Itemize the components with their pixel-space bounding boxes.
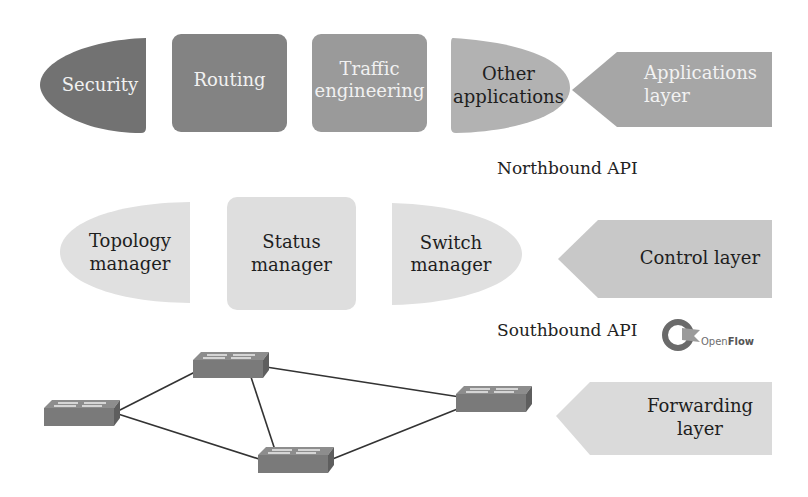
switch-icon	[456, 386, 532, 412]
traffic-engineering-label-1: Traffic	[340, 58, 400, 81]
northbound-api-label: Northbound API	[497, 158, 638, 178]
routing-label: Routing	[193, 69, 265, 92]
traffic-engineering-label-2: engineering	[315, 80, 425, 103]
security-box: Security	[40, 38, 156, 133]
routing-box: Routing	[172, 34, 287, 126]
status-manager-label-1: Status	[262, 231, 320, 254]
switch-icon	[193, 352, 269, 378]
switch-manager-label-1: Switch	[420, 232, 482, 255]
southbound-api-label: Southbound API	[497, 320, 637, 340]
switch-icon	[44, 400, 120, 426]
forwarding-layer-label-1: Forwarding	[640, 395, 760, 418]
control-layer-label: Control layer	[600, 247, 760, 270]
openflow-logo-text: OpenFlow	[701, 336, 754, 347]
applications-layer-label: Applications layer	[640, 62, 776, 107]
other-applications-label-2: applications	[453, 86, 564, 109]
switch-manager-box: Switch manager	[392, 203, 510, 305]
topology-manager-box: Topology manager	[70, 202, 190, 303]
status-manager-label-2: manager	[251, 254, 332, 277]
openflow-logo-icon	[665, 322, 700, 348]
switch-manager-label-2: manager	[411, 254, 492, 277]
openflow-open: Open	[701, 336, 728, 347]
topology-manager-label-2: manager	[90, 253, 171, 276]
topology-manager-label-1: Topology	[89, 230, 171, 253]
other-applications-box: Other applications	[451, 38, 566, 133]
forwarding-layer-label-2: layer	[640, 418, 760, 441]
network-links	[118, 367, 460, 460]
forwarding-layer-label: Forwarding layer	[640, 395, 760, 440]
applications-layer-label-2: layer	[644, 85, 776, 108]
other-applications-label-1: Other	[482, 63, 535, 86]
security-label: Security	[62, 74, 138, 97]
switch-icon	[258, 447, 334, 473]
status-manager-box: Status manager	[227, 197, 356, 310]
applications-layer-label-1: Applications	[644, 62, 776, 85]
traffic-engineering-box: Traffic engineering	[312, 34, 427, 126]
openflow-flow: Flow	[728, 336, 754, 347]
